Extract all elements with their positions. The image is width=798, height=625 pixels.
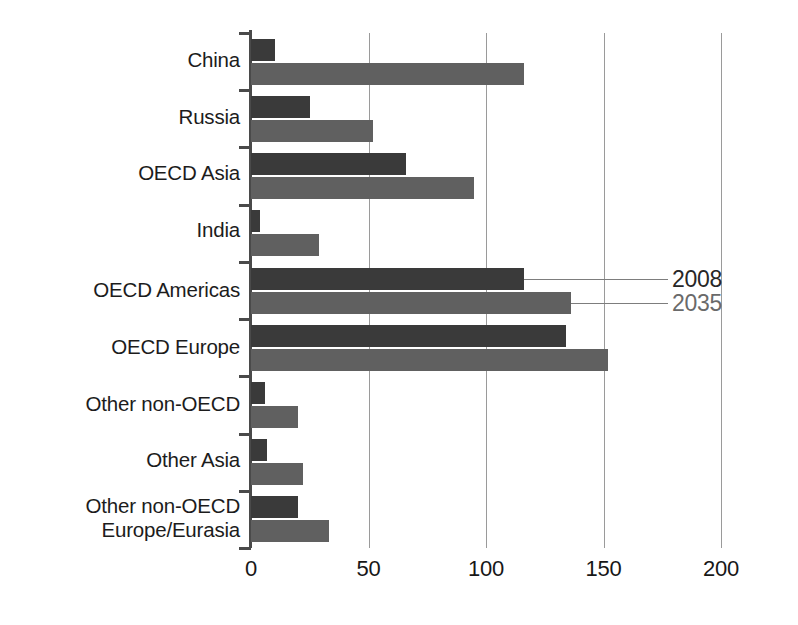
y-axis-tick [239, 146, 251, 149]
legend-leader-line-2008 [524, 279, 668, 280]
plot-area [251, 33, 721, 548]
category-label-oecd-americas: OECD Americas [93, 278, 240, 302]
gridline-150 [604, 33, 605, 548]
gridline-100 [486, 33, 487, 548]
y-axis-tick [239, 433, 251, 436]
category-label-other-asia: Other Asia [146, 448, 240, 472]
category-label-other-non-oecd: Other non-OECD [86, 392, 240, 416]
bar-2008-oecd-americas [251, 268, 524, 290]
legend-label-2008: 2008 [672, 265, 722, 292]
category-label-other-non-oecd-europe-eurasia: Other non-OECD Europe/Eurasia [86, 494, 240, 542]
y-axis-tick [239, 32, 251, 35]
x-tick-label-150: 150 [586, 556, 622, 582]
y-axis-tick [239, 89, 251, 92]
bar-2035-other-non-oecd [251, 406, 298, 428]
category-label-india: India [197, 218, 240, 242]
bar-chart: China Russia OECD Asia India OECD Americ… [0, 0, 798, 625]
y-axis-tick [239, 375, 251, 378]
category-label-china: China [187, 48, 240, 72]
bar-2035-oecd-americas [251, 292, 571, 314]
x-tick-label-200: 200 [703, 556, 739, 582]
y-axis-tick [239, 318, 251, 321]
bar-2035-other-non-oecd-europe-eurasia [251, 520, 329, 542]
x-tick-label-50: 50 [357, 556, 381, 582]
bar-2008-china [251, 39, 275, 61]
x-tick-label-100: 100 [468, 556, 504, 582]
bar-2008-other-non-oecd-europe-eurasia [251, 496, 298, 518]
category-label-russia: Russia [179, 105, 240, 129]
bar-2008-india [251, 210, 260, 232]
y-axis-tick [239, 547, 251, 550]
x-tick-label-0: 0 [245, 556, 257, 582]
y-axis-tick [239, 204, 251, 207]
legend-leader-line-2035 [571, 303, 668, 304]
gridline-50 [369, 33, 370, 548]
category-label-oecd-asia: OECD Asia [138, 161, 240, 185]
bar-2035-oecd-asia [251, 177, 474, 199]
bar-2035-india [251, 234, 319, 256]
bar-2008-other-asia [251, 439, 267, 461]
legend-label-2035: 2035 [672, 289, 722, 316]
bar-2008-russia [251, 96, 310, 118]
bar-2035-oecd-europe [251, 349, 608, 371]
bar-2008-oecd-europe [251, 325, 566, 347]
bar-2035-other-asia [251, 463, 303, 485]
y-axis-tick [239, 490, 251, 493]
bar-2035-china [251, 63, 524, 85]
bar-2008-oecd-asia [251, 153, 406, 175]
bar-2008-other-non-oecd [251, 382, 265, 404]
y-axis-tick [239, 261, 251, 264]
bar-2035-russia [251, 120, 373, 142]
category-label-oecd-europe: OECD Europe [111, 335, 240, 359]
